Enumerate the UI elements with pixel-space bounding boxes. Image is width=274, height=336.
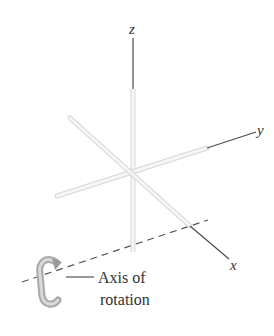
rotation-axis-caption-line2: rotation <box>100 291 150 308</box>
rotation-axes-diagram: z y x Axis of rotation <box>0 0 274 336</box>
x-axis-line <box>190 226 229 259</box>
rotation-axis-caption-line1: Axis of <box>98 269 146 286</box>
z-axis-label: z <box>128 21 135 37</box>
y-axis-label: y <box>255 122 264 138</box>
x-axis-label: x <box>229 257 237 273</box>
x-rod <box>70 118 190 226</box>
rotation-arrow-icon <box>40 258 62 304</box>
y-axis-line <box>207 132 256 148</box>
